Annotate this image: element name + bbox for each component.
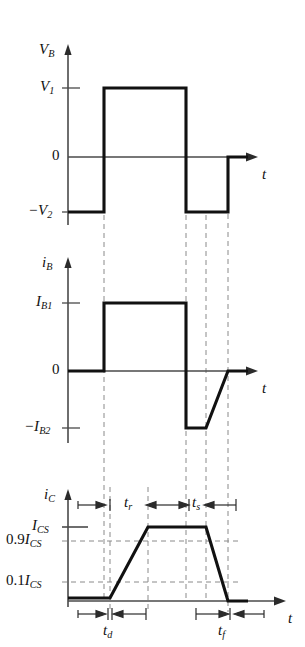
- arrowhead-td-right: [113, 611, 123, 618]
- ib-level-zero-label: 0: [52, 362, 60, 377]
- ic-y-axis-arrow-icon: [64, 489, 71, 500]
- ib-waveform: [68, 303, 248, 428]
- vb-waveform: [68, 88, 248, 212]
- fall-time-label: tf: [218, 623, 225, 640]
- ib-level-ib1-label: IB1: [36, 294, 52, 311]
- ib-time-axis-label: t: [262, 381, 266, 396]
- vb-axis-label: VB: [39, 42, 54, 59]
- storage-time-label: ts: [192, 495, 200, 512]
- panel-ic: [62, 489, 286, 620]
- vb-time-axis-label: t: [262, 167, 266, 182]
- arrowhead-tf: [234, 611, 244, 618]
- ib-level-negib2-label: −IB2: [24, 419, 50, 436]
- time-guide-lines: [104, 160, 228, 612]
- arrowhead-td-left: [96, 611, 106, 618]
- ic-level-09ics-label: 0.9ICS: [6, 532, 42, 549]
- vb-level-negv2-label: −V2: [28, 203, 52, 220]
- panel-vb: [62, 44, 258, 225]
- ic-time-axis-label: t: [288, 611, 292, 626]
- ic-axis-label: iC: [44, 487, 55, 504]
- vb-level-zero-label: 0: [52, 148, 60, 163]
- rise-time-label: tr: [124, 495, 132, 512]
- ic-x-axis-arrow-icon: [274, 597, 286, 606]
- bjt-switching-waveform-figure: [0, 0, 305, 647]
- ic-bottom-interval-markers: [78, 608, 264, 620]
- vb-y-axis-arrow-icon: [64, 44, 71, 55]
- ic-top-interval-markers: [78, 499, 236, 511]
- ib-y-axis-arrow-icon: [64, 257, 71, 268]
- arrowhead-tr-right: [179, 502, 189, 509]
- ic-level-01ics-label: 0.1ICS: [6, 573, 42, 590]
- vb-level-v1-label: V1: [40, 79, 54, 96]
- ic-waveform: [68, 527, 248, 601]
- ib-axis-label: iB: [42, 255, 52, 272]
- delay-time-label: td: [103, 623, 112, 640]
- panel-ib: [62, 257, 258, 443]
